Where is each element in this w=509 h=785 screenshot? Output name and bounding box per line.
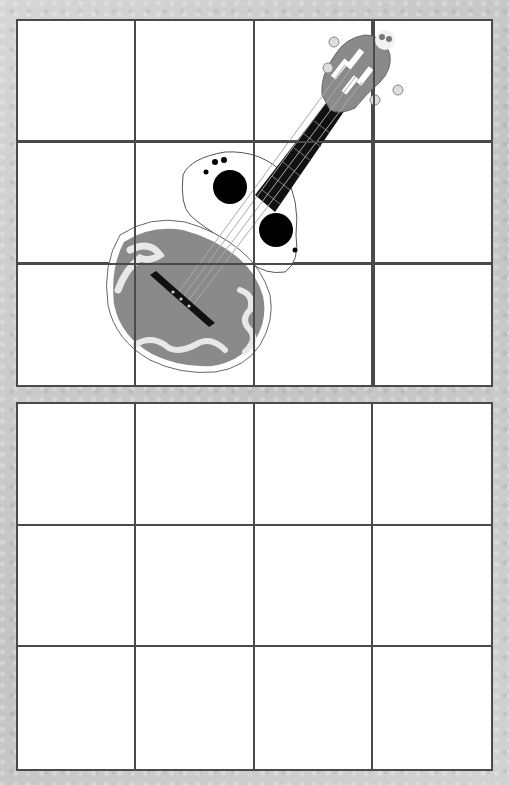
drawing-cell[interactable] — [255, 526, 373, 648]
grid-cell — [18, 21, 136, 142]
grid-cell — [255, 142, 373, 263]
drawing-cell[interactable] — [18, 526, 136, 648]
grid-cell — [373, 142, 491, 263]
grid-cell — [373, 264, 491, 385]
reference-grid — [16, 19, 493, 387]
drawing-cell[interactable] — [255, 404, 373, 526]
drawing-cell[interactable] — [373, 404, 491, 526]
drawing-cell[interactable] — [18, 647, 136, 769]
grid-cell — [18, 142, 136, 263]
drawing-cell[interactable] — [373, 647, 491, 769]
drawing-cell[interactable] — [136, 647, 254, 769]
grid-cell — [136, 21, 254, 142]
grid-cell — [255, 264, 373, 385]
drawing-cell[interactable] — [255, 647, 373, 769]
grid-cell — [136, 142, 254, 263]
grid-cell — [18, 264, 136, 385]
drawing-grid[interactable] — [16, 402, 493, 771]
drawing-cell[interactable] — [136, 404, 254, 526]
grid-cell — [136, 264, 254, 385]
drawing-cell[interactable] — [136, 526, 254, 648]
drawing-cell[interactable] — [373, 526, 491, 648]
drawing-cell[interactable] — [18, 404, 136, 526]
grid-cell — [373, 21, 491, 142]
grid-cell — [255, 21, 373, 142]
